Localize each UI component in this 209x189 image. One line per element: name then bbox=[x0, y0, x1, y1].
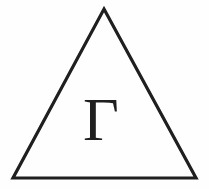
figure-background bbox=[0, 0, 209, 189]
triangle-emblem-svg bbox=[0, 0, 209, 189]
emblem-figure: Г bbox=[0, 0, 209, 189]
